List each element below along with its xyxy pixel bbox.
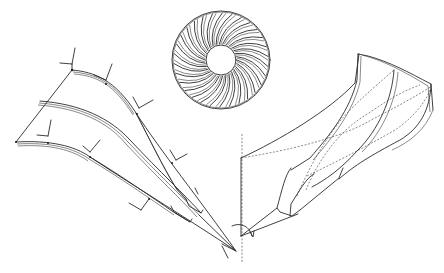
rotor-blade <box>180 74 213 83</box>
rotor-blade <box>230 72 235 106</box>
patent-figure <box>0 0 444 273</box>
rotor-blade <box>237 63 255 92</box>
rotor-blade <box>207 14 212 48</box>
rotor-wheel-view <box>172 11 270 109</box>
rotor-blade <box>229 37 262 46</box>
coordinate-frame <box>37 48 187 210</box>
rotor-blade <box>187 28 205 57</box>
